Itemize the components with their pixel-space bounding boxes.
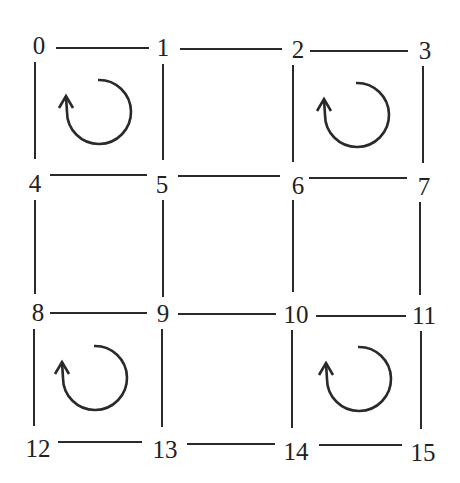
edge-11-15 — [420, 331, 422, 429]
node-label-9: 9 — [157, 301, 170, 326]
edge-9-13 — [161, 329, 163, 427]
edge-5-6 — [178, 175, 280, 177]
circulation-arrow-icon — [314, 77, 394, 153]
edge-8-9 — [50, 312, 147, 314]
edge-7-11 — [419, 202, 421, 295]
edge-13-14 — [187, 443, 275, 445]
edge-2-3 — [310, 50, 408, 52]
node-label-13: 13 — [153, 437, 178, 462]
edge-0-1 — [56, 47, 149, 49]
edge-10-14 — [291, 330, 293, 428]
node-label-1: 1 — [157, 35, 170, 60]
circulation-arrow-icon — [56, 74, 136, 150]
edge-2-6 — [292, 65, 294, 162]
node-label-14: 14 — [284, 439, 309, 464]
edge-6-7 — [309, 177, 407, 179]
edge-10-11 — [316, 315, 406, 317]
edge-0-4 — [34, 62, 36, 159]
edge-6-10 — [292, 200, 294, 292]
edge-1-5 — [162, 64, 164, 160]
edge-8-12 — [33, 329, 35, 426]
circulation-arrow-icon — [52, 340, 132, 416]
edge-14-15 — [319, 444, 402, 446]
edge-12-13 — [58, 441, 142, 443]
edge-4-8 — [34, 200, 36, 294]
node-label-11: 11 — [412, 303, 436, 328]
node-label-6: 6 — [292, 173, 305, 198]
node-label-8: 8 — [32, 300, 45, 325]
node-label-5: 5 — [156, 172, 169, 197]
node-label-3: 3 — [419, 38, 432, 63]
node-label-2: 2 — [292, 37, 305, 62]
node-label-10: 10 — [284, 302, 309, 327]
edge-3-7 — [422, 66, 424, 163]
node-label-12: 12 — [26, 436, 51, 461]
edge-5-9 — [162, 200, 164, 297]
node-label-7: 7 — [418, 174, 431, 199]
edge-4-5 — [50, 174, 147, 176]
grid-graph-diagram: 0 1 2 3 4 5 6 7 8 9 10 11 12 13 14 15 — [0, 0, 460, 483]
circulation-arrow-icon — [316, 341, 396, 417]
edge-9-10 — [178, 313, 276, 315]
edge-1-2 — [180, 48, 282, 50]
node-label-0: 0 — [33, 33, 46, 58]
node-label-15: 15 — [411, 440, 436, 465]
node-label-4: 4 — [29, 171, 42, 196]
